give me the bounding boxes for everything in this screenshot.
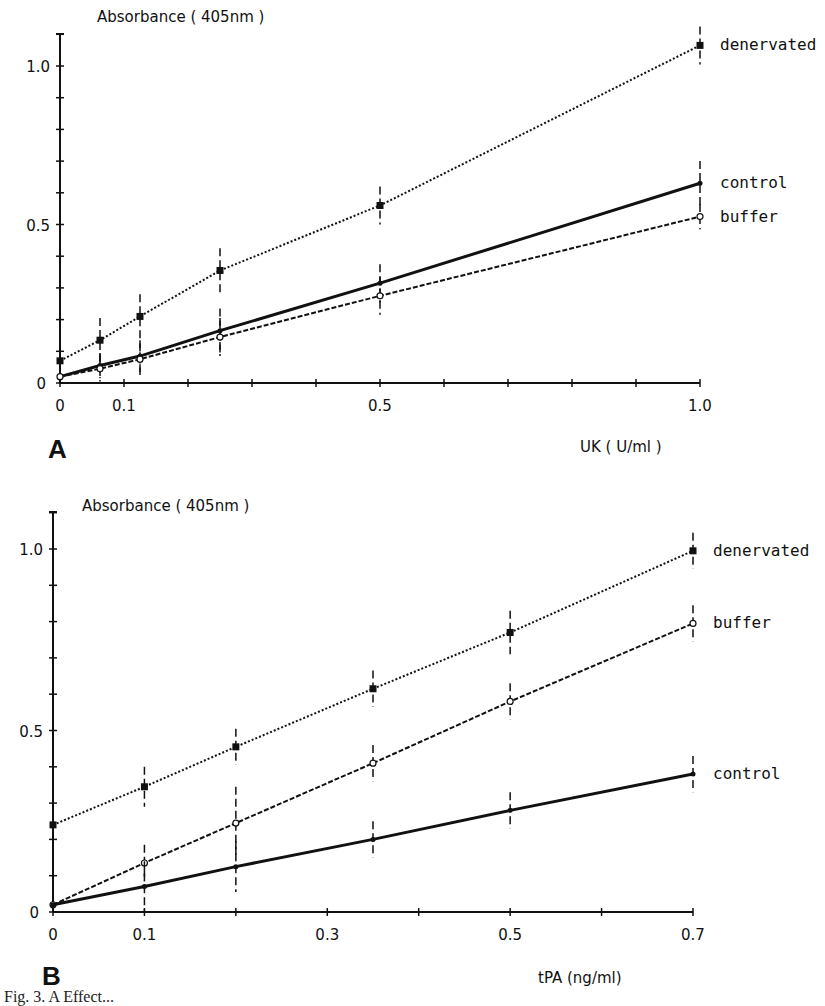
marker-dot <box>691 772 696 777</box>
marker-dot <box>142 884 147 889</box>
marker-open-circle <box>370 760 376 766</box>
marker-square <box>97 337 104 344</box>
marker-square <box>137 313 144 320</box>
marker-square <box>57 357 64 364</box>
marker-square <box>141 783 148 790</box>
panel-b-x-tick-0-5: 0.5 <box>498 926 522 944</box>
panel-b-y-tick-0: 0 <box>29 904 39 922</box>
marker-open-circle <box>697 214 703 220</box>
panel-b-x-tick-0-3: 0.3 <box>315 926 339 944</box>
marker-square <box>697 42 704 49</box>
panel-b-x-tick-0: 0 <box>48 926 58 944</box>
panel-a-y-axis-label: Absorbance ( 405nm ) <box>97 8 264 26</box>
panel-a-x-tick-0-5: 0.5 <box>368 397 392 415</box>
panel-b-y-tick-0-5: 0.5 <box>19 723 43 741</box>
marker-open-circle <box>217 334 223 340</box>
panel-a-y-tick-1-0: 1.0 <box>26 58 50 76</box>
marker-open-circle <box>690 620 696 626</box>
marker-dot <box>508 808 513 813</box>
marker-square <box>50 821 57 828</box>
marker-dot <box>371 837 376 842</box>
panel-a-legend-buffer: buffer <box>720 207 778 226</box>
marker-open-circle <box>97 366 103 372</box>
panel-a-x-tick-1-0: 1.0 <box>688 397 712 415</box>
panel-b-series <box>50 533 697 912</box>
marker-open-circle <box>507 698 513 704</box>
marker-square <box>217 267 224 274</box>
panel-b-legend-control: control <box>713 764 780 783</box>
marker-dot <box>698 181 703 186</box>
panel-a-x-axis-label: UK ( U/ml ) <box>580 438 662 456</box>
panel-a-y-tick-0: 0 <box>36 375 46 393</box>
panel-b-x-tick-0-1: 0.1 <box>132 926 156 944</box>
panel-b-legend-denervated: denervated <box>713 541 809 560</box>
panel-a-legend-control: control <box>720 173 787 192</box>
panel-a-axes <box>56 34 700 387</box>
marker-square <box>232 743 239 750</box>
marker-open-circle <box>377 293 383 299</box>
panel-b-x-tick-0-7: 0.7 <box>681 926 705 944</box>
marker-square <box>690 547 697 554</box>
panel-a-legend-denervated: denervated <box>720 35 816 54</box>
panel-b-chart: Absorbance ( 405nm ) 0 0.1 0.3 0.5 0.7 0… <box>19 497 809 991</box>
marker-dot <box>51 902 56 907</box>
panel-b-axes <box>49 512 693 916</box>
figure-caption: Fig. 3. A Effect... <box>4 988 114 1006</box>
panel-b-legend-buffer: buffer <box>713 613 771 632</box>
panel-a-series <box>57 26 704 381</box>
panel-b-x-axis-label: tPA (ng/ml) <box>538 969 622 987</box>
panel-b-label: B <box>42 961 61 991</box>
marker-open-circle <box>57 374 63 380</box>
marker-square <box>507 629 514 636</box>
marker-open-circle <box>137 356 143 362</box>
marker-dot <box>233 864 238 869</box>
panel-a-chart: Absorbance ( 405nm ) 0 0.1 0.5 1.0 0 0.5… <box>26 8 816 464</box>
panel-a-x-tick-0: 0 <box>55 397 65 415</box>
marker-square <box>377 202 384 209</box>
marker-open-circle <box>233 820 239 826</box>
panel-a-label: A <box>48 434 67 464</box>
marker-square <box>370 685 377 692</box>
panel-a-y-tick-0-5: 0.5 <box>26 217 50 235</box>
panel-b-y-axis-label: Absorbance ( 405nm ) <box>82 497 249 515</box>
panel-a-x-tick-0-1: 0.1 <box>112 397 136 415</box>
panel-b-y-tick-1-0: 1.0 <box>19 541 43 559</box>
